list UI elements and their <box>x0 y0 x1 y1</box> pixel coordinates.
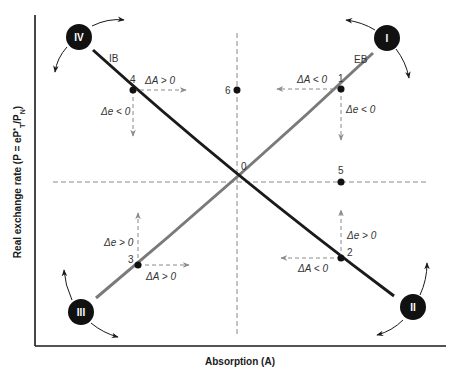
point-3-dot <box>135 262 142 269</box>
zone-iii: III <box>64 270 118 337</box>
point-5-label: 5 <box>338 165 344 176</box>
origin-label: 0 <box>241 161 247 172</box>
point-2-label: 2 <box>347 247 353 258</box>
zone-iv: IV <box>55 20 124 72</box>
point-1-dA: ΔA < 0 <box>296 74 327 85</box>
point-3-dA: ΔA > 0 <box>145 271 176 282</box>
zone-iii-arrow-right <box>91 323 118 337</box>
point-5-dot <box>338 179 345 186</box>
y-axis-title: Real exchange rate (P = eP*T/PN) <box>12 106 26 258</box>
eb-curve-label: EB <box>354 54 368 65</box>
zone-ii-arrow-left <box>377 320 403 335</box>
zone-ii: II <box>377 263 427 335</box>
zone-iv-label: IV <box>74 32 84 43</box>
zone-iv-arrow-down <box>55 47 67 72</box>
point-2-de: Δe > 0 <box>346 230 377 241</box>
point-1-dot <box>338 86 345 93</box>
point-1-de: Δe < 0 <box>345 104 376 115</box>
zone-iv-arrow-right <box>92 20 124 26</box>
x-axis-title: Absorption (A) <box>205 356 275 367</box>
zone-i-arrow-down <box>396 49 409 78</box>
point-4-label: 4 <box>130 74 136 85</box>
point-2-dA: ΔA < 0 <box>297 263 328 274</box>
zone-i-label: I <box>386 33 389 44</box>
point-6-label: 6 <box>225 85 231 96</box>
point-3-de: Δe > 0 <box>103 237 134 248</box>
point-1-label: 1 <box>338 73 344 84</box>
point-4: 4 ΔA > 0 Δe < 0 <box>100 74 186 136</box>
zone-ii-arrow-up <box>420 263 427 295</box>
point-1: 1 ΔA < 0 Δe < 0 <box>277 73 376 140</box>
zone-ii-label: II <box>410 302 416 313</box>
zone-i-arrow-left <box>346 20 375 30</box>
point-5: 5 <box>338 165 345 186</box>
point-6-dot <box>234 87 241 94</box>
point-4-de: Δe < 0 <box>100 106 131 117</box>
internal-external-balance-diagram: Absorption (A) Real exchange rate (P = e… <box>0 0 457 378</box>
point-4-dA: ΔA > 0 <box>144 75 175 86</box>
point-6: 6 <box>225 85 241 96</box>
zone-iii-arrow-up <box>64 270 72 300</box>
point-4-dot <box>130 87 137 94</box>
point-3-label: 3 <box>128 254 134 265</box>
point-2-dot <box>338 255 345 262</box>
point-3: 3 ΔA > 0 Δe > 0 <box>103 213 189 282</box>
zone-iii-label: III <box>77 307 86 318</box>
ib-curve-label: IB <box>109 53 119 64</box>
